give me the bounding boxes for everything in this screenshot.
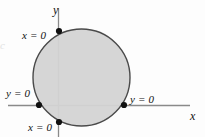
annotation-x-equals-zero-top: x = 0 (22, 30, 46, 41)
y-axis-label: y (53, 4, 59, 16)
x-axis-label: x (190, 110, 196, 122)
annotation-x-equals-zero-bottom: x = 0 (28, 122, 52, 133)
circle-region (33, 29, 130, 126)
page-edge-artifact: c (0, 40, 5, 51)
intersection-point (121, 102, 127, 108)
figure-canvas (0, 0, 205, 137)
intersection-point (56, 119, 62, 125)
annotation-y-equals-zero-right: y = 0 (130, 94, 154, 105)
intersection-point (36, 102, 42, 108)
intersection-point (56, 28, 62, 34)
annotation-y-equals-zero-left: y = 0 (6, 88, 30, 99)
math-figure: y x x = 0 y = 0 y = 0 x = 0 c (0, 0, 205, 137)
